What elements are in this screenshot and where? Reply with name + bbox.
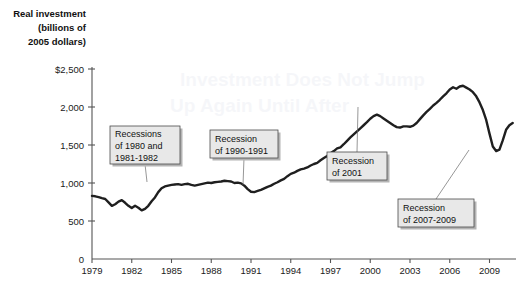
- svg-text:Up Again Until After: Up Again Until After: [170, 95, 350, 116]
- y-tick-label: 2,000: [60, 102, 84, 113]
- annotation-label: of 1980 and: [115, 141, 163, 151]
- annotation-label: of 2007-2009: [403, 215, 456, 225]
- x-tick-label: 1991: [240, 265, 261, 276]
- x-tick-label: 2000: [360, 265, 381, 276]
- svg-text:Investment Does Not Jump: Investment Does Not Jump: [180, 69, 425, 90]
- x-tick-label: 1988: [201, 265, 222, 276]
- x-tick-label: 1979: [81, 265, 102, 276]
- x-tick-label: 1994: [280, 265, 301, 276]
- annotation-label: of 1990-1991: [215, 146, 268, 156]
- annotation-label: Recessions: [115, 129, 162, 139]
- y-axis-title-line-2: (billions of: [38, 22, 87, 33]
- x-tick-label: 1997: [320, 265, 341, 276]
- x-tick-label: 1982: [121, 265, 142, 276]
- y-tick-label: $2,500: [55, 64, 84, 75]
- y-tick-label: 1,000: [60, 178, 84, 189]
- x-tick-label: 2003: [399, 265, 420, 276]
- y-tick-label: 0: [79, 254, 84, 265]
- annotation-label: Recession: [403, 203, 445, 213]
- y-tick-label: 500: [68, 216, 84, 227]
- annotation-label: Recession: [215, 134, 257, 144]
- annotation-label: of 2001: [332, 168, 362, 178]
- y-tick-label: 1,500: [60, 140, 84, 151]
- x-tick-label: 2006: [439, 265, 460, 276]
- y-axis-title-line-1: Real investment: [13, 8, 87, 19]
- x-tick-label: 2009: [479, 265, 500, 276]
- y-axis-title-line-3: 2005 dollars): [28, 36, 86, 47]
- annotation-label: Recession: [332, 156, 374, 166]
- annotation-label: 1981-1982: [115, 153, 158, 163]
- real-investment-line-chart: Investment Does Not Jump Up Again Until …: [0, 0, 524, 291]
- x-tick-label: 1985: [161, 265, 182, 276]
